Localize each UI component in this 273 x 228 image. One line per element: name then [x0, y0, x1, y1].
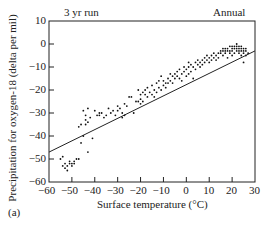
- x-tick-label: −30: [107, 184, 124, 196]
- x-tick-label: −50: [61, 184, 78, 196]
- y-tick-label: −20: [29, 83, 46, 95]
- y-axis-ticks: [49, 44, 54, 159]
- y-tick-label: −40: [29, 129, 46, 141]
- y-tick-label: −60: [29, 175, 46, 187]
- regression-line: [49, 51, 255, 152]
- x-axis-ticks: [72, 177, 232, 182]
- x-tick-label: 30: [249, 184, 260, 196]
- y-tick-label: −50: [29, 152, 46, 164]
- title-left: 3 yr run: [64, 6, 99, 18]
- y-tick-label: −30: [29, 106, 46, 118]
- y-tick-label: −10: [29, 60, 46, 72]
- title-right: Annual: [213, 6, 245, 18]
- y-axis-label: Precipitation for oxygen-18 (delta per m…: [6, 14, 18, 201]
- x-tick-label: −10: [152, 184, 169, 196]
- y-tick-label: 10: [35, 14, 46, 26]
- x-tick-label: −20: [130, 184, 147, 196]
- x-tick-label: 10: [203, 184, 214, 196]
- x-tick-label: 0: [183, 184, 189, 196]
- y-tick-label: 0: [41, 37, 47, 49]
- panel-label: (a): [8, 206, 20, 218]
- x-tick-label: 20: [226, 184, 237, 196]
- x-tick-label: −40: [84, 184, 101, 196]
- x-axis-label: Surface temperature (°C): [97, 198, 208, 210]
- data-points: [60, 43, 249, 171]
